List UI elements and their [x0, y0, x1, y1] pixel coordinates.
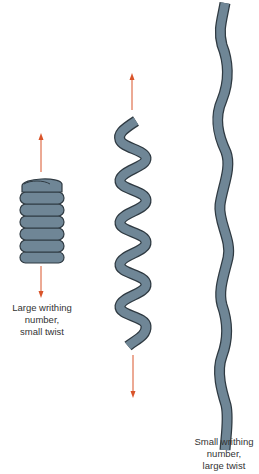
up-arrow-icon	[130, 73, 135, 110]
caption-line: Large writhing	[4, 302, 80, 314]
down-arrow-icon	[39, 266, 44, 298]
wavy-caption: Small writhing number, large twist	[188, 436, 259, 472]
caption-line: number,	[4, 314, 80, 326]
helix-panel	[120, 73, 147, 398]
wavy-panel	[218, 3, 229, 450]
caption-line: number,	[188, 448, 259, 460]
coil-panel	[20, 133, 64, 298]
supercoil-figure	[0, 0, 259, 474]
down-arrow-icon	[131, 355, 136, 398]
coil-caption: Large writhing number, small twist	[4, 302, 80, 338]
up-arrow-icon	[39, 133, 44, 172]
caption-line: small twist	[4, 326, 80, 338]
caption-line: Small writhing	[188, 436, 259, 448]
coiled-tube	[20, 179, 64, 263]
caption-line: large twist	[188, 460, 259, 472]
